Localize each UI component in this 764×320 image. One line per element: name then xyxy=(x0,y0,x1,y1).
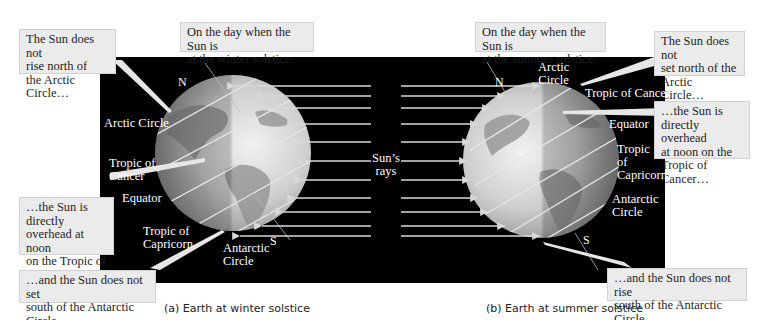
caption-winter-solstice: (a) Earth at winter solstice xyxy=(164,302,310,315)
label-antarctic-circle-summer: Antarctic Circle xyxy=(612,193,659,219)
callout-winter-arctic: The Sun does not rise north of the Arcti… xyxy=(19,29,116,74)
label-arctic-circle-summer: Arctic Circle xyxy=(538,61,569,87)
label-equator-winter: Equator xyxy=(122,192,162,205)
label-arctic-circle-winter: Arctic Circle xyxy=(104,117,169,130)
label-antarctic-circle-winter: Antarctic Circle xyxy=(223,242,270,268)
label-tropic-of-cancer-summer: Tropic of Cancer xyxy=(585,87,670,100)
north-pole-label-winter: N xyxy=(178,75,187,90)
north-pole-label-summer: N xyxy=(495,75,504,90)
suns-rays-label: Sun’s rays xyxy=(372,152,400,178)
label-equator-summer: Equator xyxy=(609,118,649,131)
callout-summer-arctic: The Sun does not set north of the Arctic… xyxy=(654,31,745,76)
south-pole-label-winter: S xyxy=(270,234,277,249)
caption-summer-solstice: (b) Earth at summer solstice xyxy=(486,302,643,315)
label-tropic-of-capricorn-summer: Tropic of Capricorn xyxy=(617,143,667,182)
callout-winter-antarctic: …and the Sun does not set south of the A… xyxy=(19,270,156,303)
south-pole-label-summer: S xyxy=(583,233,590,248)
callout-summer-tropic: …the Sun is directly overhead at noon on… xyxy=(654,101,750,159)
winter-solstice-header: On the day when the Sun is at the winter… xyxy=(180,22,314,52)
callout-winter-tropic: …the Sun is directly overhead at noon on… xyxy=(19,197,114,255)
label-tropic-of-capricorn-winter: Tropic of Capricorn xyxy=(143,225,193,251)
label-tropic-of-cancer-winter: Tropic of Cancer xyxy=(109,157,155,183)
summer-solstice-header: On the day when the Sun is at the summer… xyxy=(475,22,606,52)
callout-summer-antarctic: …and the Sun does not rise south of the … xyxy=(607,268,747,301)
